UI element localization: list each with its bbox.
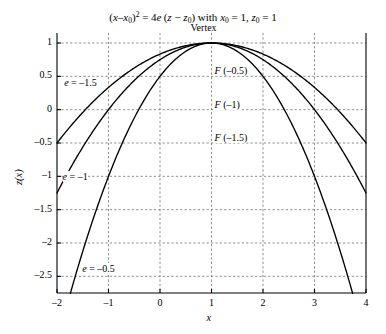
annotation-focus-1: F (–1) <box>215 99 240 110</box>
annotation-vertex: Vertex <box>191 22 217 33</box>
x-tick-label: 1 <box>192 297 232 308</box>
curves-group <box>57 43 366 293</box>
x-tick-label: –2 <box>37 297 77 308</box>
x-axis-title: x <box>207 312 212 323</box>
y-tick-label: –0.5 <box>14 136 52 147</box>
annotation-focus-15: F (–1.5) <box>215 132 248 143</box>
x-tick-label: 4 <box>346 297 386 308</box>
y-tick-label: 0.5 <box>14 69 52 80</box>
plot-svg <box>0 0 386 334</box>
x-tick-label: –1 <box>89 297 129 308</box>
y-tick-label: 0 <box>14 103 52 114</box>
y-axis-title: z(x) <box>13 169 24 185</box>
annotation-e-15: e = –1.5 <box>64 77 97 88</box>
gridlines <box>57 33 366 293</box>
figure-container: (x–x0)2 = 4e (z − z0) with x0 = 1, z0 = … <box>0 0 386 334</box>
x-tick-label: 3 <box>295 297 335 308</box>
y-tick-label: –2 <box>14 236 52 247</box>
annotation-focus-05: F (–0.5) <box>215 65 248 76</box>
curve-3 <box>57 43 366 143</box>
x-tick-label: 2 <box>243 297 283 308</box>
tick-marks <box>57 43 366 293</box>
annotation-e-1: e = –1 <box>63 171 88 182</box>
y-tick-label: 1 <box>14 36 52 47</box>
annotation-e-05: e = –0.5 <box>82 263 115 274</box>
y-tick-label: –1.5 <box>14 203 52 214</box>
curve-1 <box>70 43 352 293</box>
x-tick-label: 0 <box>140 297 180 308</box>
y-tick-label: –2.5 <box>14 269 52 280</box>
